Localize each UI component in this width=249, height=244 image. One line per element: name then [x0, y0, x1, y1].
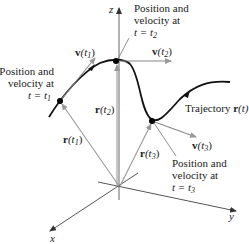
x-axis-label: x	[49, 232, 55, 244]
velocity-vectors	[60, 58, 196, 137]
leader-line-t2	[118, 38, 129, 59]
trajectory-label: Trajectory r(t)	[185, 102, 249, 115]
velocity-label-t3: v(t3)	[192, 139, 212, 153]
velocity-label-t1: v(t1)	[75, 46, 95, 60]
svg-text:Position and: Position and	[172, 157, 227, 169]
position-label-t2: r(t2)	[95, 103, 115, 117]
velocity-vector-t1	[60, 58, 95, 101]
svg-text:velocity at: velocity at	[8, 77, 54, 89]
caption-t2: Position and velocity at t = t2	[134, 2, 189, 40]
x-axis	[50, 173, 138, 231]
caption-t3: Position and velocity at t = t3	[172, 157, 227, 195]
velocity-label-t2: v(t2)	[152, 45, 172, 59]
point-t2	[113, 58, 119, 64]
svg-text:Position and: Position and	[134, 2, 189, 14]
velocity-vector-t3	[152, 121, 196, 137]
trajectory-diagram: z x y v(t1) r(t2) r(t1) v(t2) r(t3) v(t	[0, 0, 249, 244]
y-axis-label: y	[228, 210, 234, 222]
position-label-t3: r(t3)	[140, 147, 160, 161]
position-label-t1: r(t1)	[63, 133, 83, 147]
svg-text:t = t3: t = t3	[172, 181, 195, 195]
z-axis-label: z	[108, 3, 114, 15]
point-t3	[149, 118, 155, 124]
point-t1	[57, 98, 63, 104]
svg-text:velocity at: velocity at	[172, 169, 218, 181]
caption-t1: Position and velocity at t = t1	[0, 65, 54, 103]
svg-text:t = t1: t = t1	[28, 89, 51, 103]
axes: z x y	[49, 3, 236, 244]
svg-text:velocity at: velocity at	[134, 14, 180, 26]
svg-text:Position and: Position and	[0, 65, 54, 77]
svg-text:t = t2: t = t2	[134, 26, 157, 40]
